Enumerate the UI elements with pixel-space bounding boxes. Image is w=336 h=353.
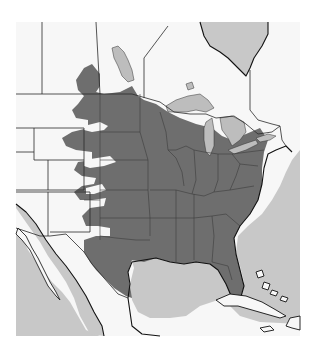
map-canvas <box>0 0 336 353</box>
lake-michigan <box>204 118 214 156</box>
range-map <box>0 0 336 353</box>
